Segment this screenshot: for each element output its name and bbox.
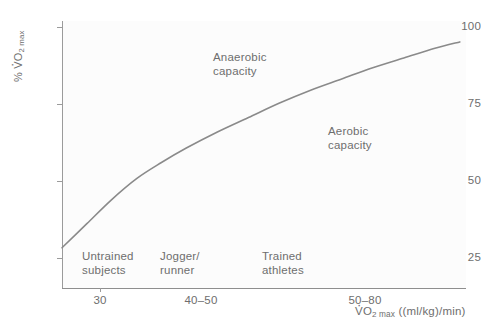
x-tick-label-30: 30 [93,294,106,306]
x-axis-line [62,288,466,289]
y-axis-title-max: max [17,30,26,48]
annotation-aerobic-capacity: Aerobic capacity [328,124,372,152]
vo2-max-chart-figure: 100 75 50 25 30 40–50 50–80 % VO2 max VO… [0,0,481,324]
x-axis-title-v-dot: V [355,305,363,317]
y-tick-label-75: 75 [447,97,481,109]
y-tick-mark-100 [57,27,62,28]
y-tick-label-25: 25 [447,251,481,263]
y-axis-title-v-dot: V [12,61,24,69]
y-axis-line [62,21,63,289]
x-axis-title-units: ((ml/kg)/min) [395,305,466,317]
y-axis-title: % VO2 max [12,58,24,82]
y-tick-label-100: 100 [447,20,481,32]
x-axis-title-o: O [363,305,372,317]
y-tick-label-50: 50 [447,174,481,186]
y-tick-mark-75 [57,104,62,105]
x-axis-title-max: max [377,310,395,319]
x-tick-mark-30 [100,288,101,292]
y-axis-title-o: O [12,52,24,61]
y-tick-mark-25 [57,258,62,259]
category-label-jogger-runner: Jogger/ runner [160,249,200,277]
y-tick-mark-50 [57,181,62,182]
category-label-trained-athletes: Trained athletes [262,249,304,277]
x-tick-label-40-50: 40–50 [185,294,218,306]
x-axis-title: VO2 max ((ml/kg)/min) [355,305,466,317]
category-label-untrained-subjects: Untrained subjects [82,249,134,277]
y-axis-title-percent: % [12,72,24,82]
y-axis-title-subscript-2: 2 [17,48,26,52]
annotation-anaerobic-capacity: Anaerobic capacity [213,50,267,78]
